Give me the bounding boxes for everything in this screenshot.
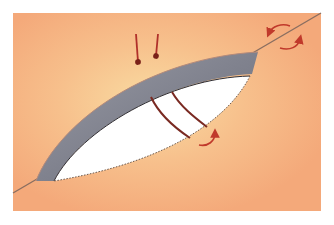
fault-lens-diagram — [0, 0, 334, 225]
diagram-panel — [0, 0, 334, 225]
